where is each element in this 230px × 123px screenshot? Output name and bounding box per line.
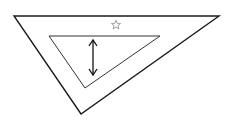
nested-triangles-diagram xyxy=(0,0,230,123)
inner-triangle xyxy=(49,36,160,88)
double-arrow-icon xyxy=(89,40,97,75)
outer-triangle xyxy=(14,16,219,114)
star-icon xyxy=(111,20,120,29)
